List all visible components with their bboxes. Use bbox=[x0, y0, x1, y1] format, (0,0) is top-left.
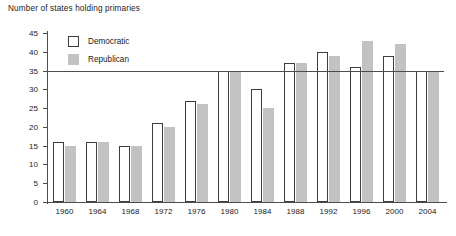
x-tick-label-1988: 1988 bbox=[287, 207, 305, 216]
bar-republican-1964 bbox=[98, 142, 110, 202]
x-tick-label-2004: 2004 bbox=[419, 207, 437, 216]
bar-group-1984 bbox=[251, 33, 275, 202]
x-tick-label-1960: 1960 bbox=[56, 207, 74, 216]
y-tick-label-40: 40 bbox=[0, 47, 38, 56]
legend-swatch-republican-icon bbox=[68, 54, 79, 65]
legend-label-republican: Republican bbox=[88, 55, 129, 64]
x-tick-label-1992: 1992 bbox=[320, 207, 338, 216]
bar-democratic-1972 bbox=[152, 123, 164, 202]
bar-group-2000 bbox=[383, 33, 407, 202]
bar-group-1976 bbox=[185, 33, 209, 202]
bar-democratic-1992 bbox=[317, 52, 329, 202]
bar-group-1996 bbox=[350, 33, 374, 202]
reference-line bbox=[48, 71, 444, 72]
x-tick-label-1996: 1996 bbox=[353, 207, 371, 216]
bar-republican-1984 bbox=[263, 108, 275, 202]
x-tick-label-1980: 1980 bbox=[221, 207, 239, 216]
x-tick-label-1984: 1984 bbox=[254, 207, 272, 216]
y-tick-label-15: 15 bbox=[0, 141, 38, 150]
y-tick-label-20: 20 bbox=[0, 122, 38, 131]
y-tick-label-0: 0 bbox=[0, 198, 38, 207]
bar-democratic-1964 bbox=[86, 142, 98, 202]
bar-democratic-1968 bbox=[119, 146, 131, 202]
x-tick-label-1976: 1976 bbox=[188, 207, 206, 216]
bar-group-1992 bbox=[317, 33, 341, 202]
y-tick-label-5: 5 bbox=[0, 179, 38, 188]
bar-democratic-1996 bbox=[350, 67, 362, 202]
x-tick-label-1964: 1964 bbox=[89, 207, 107, 216]
x-tick-label-1968: 1968 bbox=[122, 207, 140, 216]
chart-title: Number of states holding primaries bbox=[8, 4, 140, 13]
bar-group-1988 bbox=[284, 33, 308, 202]
bar-democratic-1960 bbox=[53, 142, 65, 202]
y-tick-label-35: 35 bbox=[0, 66, 38, 75]
bar-republican-1976 bbox=[197, 104, 209, 202]
y-tick-label-30: 30 bbox=[0, 85, 38, 94]
x-tick-label-1972: 1972 bbox=[155, 207, 173, 216]
bar-group-1972 bbox=[152, 33, 176, 202]
legend-swatch-democratic-icon bbox=[68, 36, 79, 47]
y-tick-mark-0 bbox=[43, 202, 48, 203]
bar-democratic-2000 bbox=[383, 56, 395, 202]
x-tick-label-2000: 2000 bbox=[386, 207, 404, 216]
bar-democratic-1988 bbox=[284, 63, 296, 202]
bar-democratic-1976 bbox=[185, 101, 197, 202]
y-tick-label-10: 10 bbox=[0, 160, 38, 169]
chart-legend: Democratic Republican bbox=[68, 34, 129, 70]
y-tick-label-45: 45 bbox=[0, 29, 38, 38]
bar-republican-1980 bbox=[230, 71, 242, 202]
legend-label-democratic: Democratic bbox=[88, 37, 129, 46]
bar-republican-2004 bbox=[428, 71, 440, 202]
bar-democratic-1984 bbox=[251, 89, 263, 202]
bar-republican-1972 bbox=[164, 127, 176, 202]
bar-group-2004 bbox=[416, 33, 440, 202]
bar-democratic-2004 bbox=[416, 71, 428, 202]
bar-democratic-1980 bbox=[218, 71, 230, 202]
x-axis-spine bbox=[47, 202, 447, 203]
bar-republican-1988 bbox=[296, 63, 308, 202]
bar-republican-2000 bbox=[395, 44, 407, 202]
bar-republican-1996 bbox=[362, 41, 374, 202]
bar-republican-1960 bbox=[65, 146, 77, 202]
bar-group-1980 bbox=[218, 33, 242, 202]
y-tick-label-25: 25 bbox=[0, 104, 38, 113]
legend-item-republican: Republican bbox=[68, 52, 129, 67]
bar-republican-1992 bbox=[329, 56, 341, 202]
bar-republican-1968 bbox=[131, 146, 143, 202]
primaries-bar-chart: Number of states holding primaries 05101… bbox=[0, 0, 456, 236]
legend-item-democratic: Democratic bbox=[68, 34, 129, 49]
